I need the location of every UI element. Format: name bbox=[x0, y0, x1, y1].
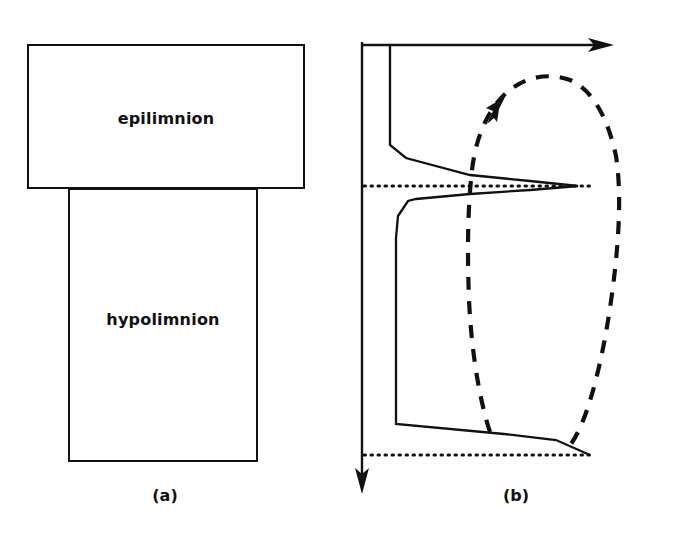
epilimnion-label: epilimnion bbox=[118, 109, 215, 128]
profile-plot-svg bbox=[338, 0, 676, 546]
panel-a-caption: (a) bbox=[115, 486, 215, 505]
hypolimnion-label: hypolimnion bbox=[106, 310, 219, 329]
hypolimnion-box: hypolimnion bbox=[68, 188, 258, 462]
panel-b-profile-plot: (b) bbox=[338, 0, 676, 546]
dashed-profile-curve bbox=[468, 76, 619, 450]
figure-root: epilimnion hypolimnion (a) bbox=[0, 0, 676, 546]
panel-a-lake-schematic: epilimnion hypolimnion (a) bbox=[0, 0, 338, 546]
flow-direction-arrow-icon bbox=[486, 97, 505, 124]
panel-b-caption: (b) bbox=[466, 486, 566, 505]
epilimnion-box: epilimnion bbox=[27, 44, 305, 189]
